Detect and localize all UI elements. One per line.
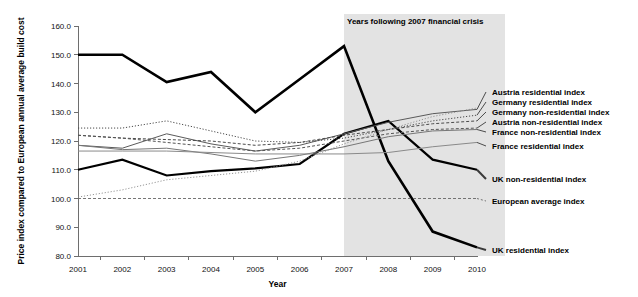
y-tick-label: 90.0 bbox=[55, 223, 71, 232]
legend-label-france-non-residential-index: France non-residential index bbox=[492, 128, 601, 137]
legend-label-austria-non-residential-index: Austria non-residential index bbox=[492, 118, 603, 127]
x-tick-label: 2010 bbox=[468, 265, 486, 274]
x-tick-label: 2003 bbox=[158, 265, 176, 274]
chart-container: Years following 2007 financial crisis 80… bbox=[0, 0, 638, 297]
crisis-annotation: Years following 2007 financial crisis bbox=[347, 17, 484, 26]
y-tick-label: 100.0 bbox=[51, 195, 72, 204]
y-tick-label: 110.0 bbox=[52, 166, 72, 175]
legend-label-france-residential-index: France residential index bbox=[492, 142, 584, 151]
x-tick-label: 2007 bbox=[335, 265, 353, 274]
line-chart: Years following 2007 financial crisis 80… bbox=[0, 0, 638, 297]
crisis-annotation-label: Years following 2007 financial crisis bbox=[347, 17, 484, 26]
x-axis-title: Year bbox=[269, 279, 288, 289]
x-tick-label: 2002 bbox=[113, 265, 131, 274]
x-tick-label: 2008 bbox=[379, 265, 397, 274]
y-tick-label: 150.0 bbox=[51, 51, 72, 60]
y-tick-label: 140.0 bbox=[51, 80, 72, 89]
legend-label-uk-residential-index: UK residential index bbox=[492, 246, 569, 255]
y-tick-label: 120.0 bbox=[51, 137, 72, 146]
y-tick-label: 130.0 bbox=[51, 108, 72, 117]
legend-label-european-average-index: European average index bbox=[492, 197, 585, 206]
legend-label-germany-non-residential-index: Germany non-residential index bbox=[492, 108, 610, 117]
x-tick-label: 2009 bbox=[424, 265, 442, 274]
x-tick-label: 2005 bbox=[246, 265, 264, 274]
y-tick-label: 160.0 bbox=[51, 22, 72, 31]
x-tick-label: 2004 bbox=[202, 265, 220, 274]
x-tick-label: 2006 bbox=[291, 265, 309, 274]
y-axis-title: Price index compared to European annual … bbox=[16, 17, 26, 264]
legend-label-austria-residential-index: Austria residential index bbox=[492, 88, 585, 97]
legend-label-uk-non-residential-index: UK non-residential index bbox=[492, 175, 587, 184]
y-tick-label: 80.0 bbox=[55, 252, 71, 261]
x-tick-label: 2001 bbox=[69, 265, 87, 274]
legend-label-germany-residential-index: Germany residential index bbox=[492, 98, 593, 107]
